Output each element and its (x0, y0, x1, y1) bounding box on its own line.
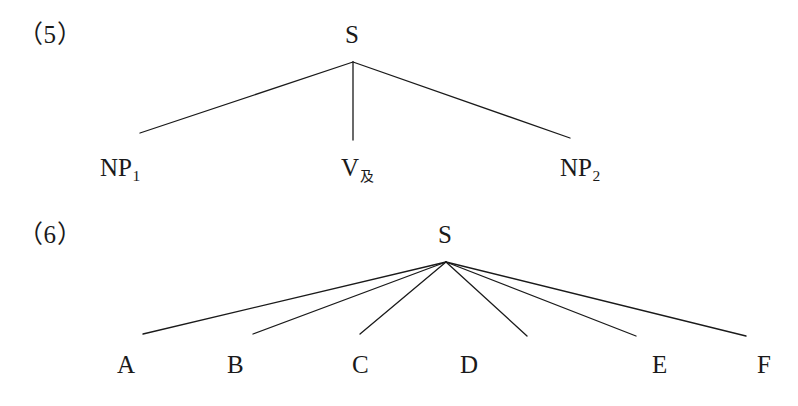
leaf-np2-base: NP (560, 154, 592, 181)
tree-branch-lines (0, 0, 798, 406)
leaf-e-base: E (652, 351, 667, 378)
figure-5-branch-np1 (140, 62, 353, 133)
figure-5-leaf-np1: NP1 (100, 155, 140, 180)
figure-6-branch-c (360, 262, 446, 334)
figure-6-leaf-c: C (352, 352, 369, 377)
figure-6-leaf-e: E (652, 352, 667, 377)
leaf-b-base: B (227, 351, 244, 378)
figure-6-branch-d (446, 262, 527, 336)
figure-6-branch-e (446, 262, 636, 336)
leaf-np1-subscript: 1 (133, 167, 141, 184)
figure-6-branch-f (446, 262, 746, 336)
leaf-np2-subscript: 2 (593, 167, 601, 184)
tree5-root-node-S: S (345, 22, 359, 47)
leaf-v-subscript: 及 (360, 168, 374, 184)
example-number-6: （6） (18, 222, 82, 247)
figure-6-branch-a (143, 262, 446, 334)
figure-5-leaf-v: V及 (341, 155, 373, 180)
figure-6-leaf-b: B (227, 352, 244, 377)
leaf-np1-base: NP (100, 154, 132, 181)
leaf-a-base: A (117, 351, 135, 378)
figure-5-leaf-np2: NP2 (560, 155, 600, 180)
figure-6-branch-b (253, 262, 446, 334)
tree6-root-node-S: S (438, 222, 452, 247)
figure-5-branch-np2 (353, 62, 570, 138)
leaf-f-base: F (757, 351, 771, 378)
figure-6-leaf-a: A (117, 352, 135, 377)
leaf-c-base: C (352, 351, 369, 378)
figure-6-leaf-f: F (757, 352, 771, 377)
leaf-v-base: V (341, 154, 359, 181)
document-page: （5） （6） S S NP1V及NP2ABCDEF (0, 0, 798, 406)
example-number-5: （5） (18, 22, 82, 47)
leaf-d-base: D (460, 351, 478, 378)
figure-6-leaf-d: D (460, 352, 478, 377)
